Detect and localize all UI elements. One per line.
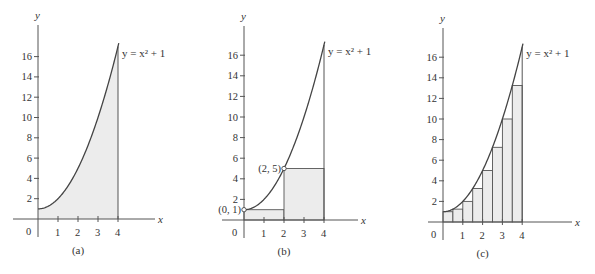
riemann-rectangle <box>453 209 463 222</box>
x-tick-label: 2 <box>75 227 80 238</box>
x-tick-label: 2 <box>480 230 485 241</box>
y-axis-label: y <box>439 12 445 24</box>
panel-caption: (b) <box>278 245 291 258</box>
x-tick-label: 1 <box>261 228 266 239</box>
x-tick-label: 4 <box>519 230 525 241</box>
y-tick-label: 8 <box>233 132 238 143</box>
y-tick-label: 4 <box>233 173 239 184</box>
point-label: (0, 1) <box>218 204 241 216</box>
riemann-sum-figure: xy01234246810121416y = x² + 1(a)xy012342… <box>0 0 595 274</box>
panel-a: xy01234246810121416y = x² + 1(a) <box>13 9 165 257</box>
x-tick-label: 1 <box>460 230 465 241</box>
x-tick-label: 1 <box>55 227 60 238</box>
y-tick-label: 14 <box>427 72 438 83</box>
y-tick-label: 12 <box>22 92 33 103</box>
y-tick-label: 4 <box>27 173 33 184</box>
y-tick-label: 16 <box>228 50 239 61</box>
riemann-rectangle <box>493 147 503 222</box>
y-tick-label: 2 <box>27 193 32 204</box>
x-axis-label: x <box>157 213 163 225</box>
shaded-area <box>38 46 118 219</box>
equation-label: y = x² + 1 <box>526 47 569 59</box>
y-tick-label: 8 <box>432 134 437 145</box>
y-tick-label: 16 <box>427 52 438 63</box>
panel-b: xy01234246810121416y = x² + 1(0, 1)(2, 5… <box>218 10 371 258</box>
y-tick-label: 12 <box>427 93 438 104</box>
x-tick-label: 3 <box>95 227 100 238</box>
panel-c: xy01234246810121416y = x² + 1(c) <box>427 12 581 260</box>
y-axis-label: y <box>240 10 246 22</box>
point-label: (2, 5) <box>258 163 281 175</box>
x-tick-label: 3 <box>499 230 504 241</box>
y-tick-label: 4 <box>432 175 438 186</box>
y-tick-label: 14 <box>228 70 239 81</box>
origin-label: 0 <box>232 227 237 238</box>
y-tick-label: 6 <box>432 155 437 166</box>
y-tick-label: 16 <box>22 51 33 62</box>
x-tick-label: 4 <box>115 227 121 238</box>
y-tick-label: 10 <box>22 112 33 123</box>
x-tick-label: 4 <box>321 228 327 239</box>
riemann-rectangle <box>463 201 473 222</box>
riemann-rectangle <box>284 169 324 221</box>
y-tick-label: 6 <box>27 153 32 164</box>
y-tick-label: 10 <box>228 112 239 123</box>
x-tick-label: 3 <box>301 228 306 239</box>
y-axis-label: y <box>34 9 40 21</box>
panel-caption: (a) <box>72 244 85 257</box>
y-tick-label: 2 <box>432 196 437 207</box>
x-axis-label: x <box>574 216 580 228</box>
riemann-rectangle <box>443 212 453 222</box>
y-tick-label: 8 <box>27 132 32 143</box>
riemann-rectangle <box>483 171 493 223</box>
x-axis-label: x <box>360 214 366 226</box>
origin-label: 0 <box>26 226 31 237</box>
point-marker <box>242 208 246 212</box>
x-tick-label: 2 <box>281 228 286 239</box>
y-tick-label: 10 <box>427 114 438 125</box>
panel-caption: (c) <box>476 247 489 260</box>
riemann-rectangle <box>473 189 483 222</box>
equation-label: y = x² + 1 <box>328 45 371 57</box>
y-tick-label: 6 <box>233 153 238 164</box>
y-tick-label: 14 <box>22 71 33 82</box>
equation-label: y = x² + 1 <box>122 47 165 59</box>
riemann-rectangle <box>502 119 512 222</box>
riemann-rectangle <box>512 86 522 222</box>
origin-label: 0 <box>431 229 436 240</box>
point-marker <box>282 166 286 170</box>
y-tick-label: 12 <box>228 91 239 102</box>
